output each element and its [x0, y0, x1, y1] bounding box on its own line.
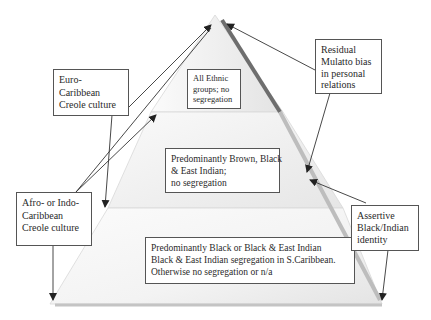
annotation-line: Caribbean	[22, 210, 86, 223]
tier-middle-label-line: no segregation	[171, 177, 274, 189]
annotation-residual-mulatto-bias: Residual Mulatto bias in personal relati…	[315, 39, 382, 94]
tier-bottom-label-line: Predominantly Black or Black & East Indi…	[151, 242, 349, 254]
annotation-line: relations	[321, 79, 376, 91]
annotation-line: Residual	[321, 44, 376, 56]
annotation-line: Assertive	[357, 210, 413, 222]
annotation-line: Creole culture	[59, 99, 123, 112]
tier-top-label-line: groups; no	[193, 84, 235, 95]
annotation-line: Caribbean	[59, 87, 123, 100]
tier-top-label: All Ethnic groups; no segregation	[187, 69, 241, 109]
tier-bottom-label-line: Otherwise no segregation or n/a	[151, 266, 349, 278]
annotation-line: Euro-	[59, 74, 123, 87]
tier-middle-label-line: & East Indian;	[171, 165, 274, 177]
annotation-afro-indo-caribbean: Afro- or Indo- Caribbean Creole culture	[16, 192, 92, 246]
annotation-line: Mulatto bias	[321, 56, 376, 68]
annotation-assertive-identity: Assertive Black/Indian identity	[351, 205, 419, 251]
annotation-line: Black/Indian	[357, 222, 413, 234]
annotation-line: identity	[357, 234, 413, 246]
tier-bottom-label-line: Black & East Indian segregation in S.Car…	[151, 254, 349, 266]
arrow-assertive-to-base	[382, 250, 388, 300]
annotation-line: in personal	[321, 68, 376, 80]
tier-middle-label-line: Predominantly Brown, Black	[171, 153, 274, 165]
tier-top-label-line: All Ethnic	[193, 73, 235, 84]
tier-bottom-label: Predominantly Black or Black & East Indi…	[145, 237, 355, 284]
annotation-line: Afro- or Indo-	[22, 197, 86, 210]
arrow-mulatto-to-edge	[307, 93, 330, 172]
tier-top-label-line: segregation	[193, 94, 235, 105]
annotation-line: Creole culture	[22, 222, 86, 235]
tier-middle-label: Predominantly Brown, Black & East Indian…	[165, 148, 280, 193]
annotation-euro-caribbean: Euro- Caribbean Creole culture	[53, 69, 129, 116]
